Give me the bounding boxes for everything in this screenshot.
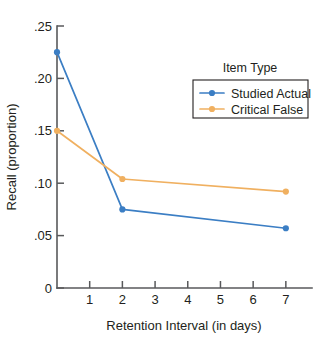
data-point-critical-false xyxy=(119,176,125,182)
legend-swatch-marker xyxy=(209,106,215,112)
series-line-studied-actual xyxy=(57,52,286,228)
data-point-studied-actual xyxy=(283,225,289,231)
legend-entries: Studied ActualCritical False xyxy=(200,87,311,117)
y-tick-label: 0 xyxy=(45,281,52,296)
x-tick-label: 5 xyxy=(217,292,224,307)
data-point-critical-false xyxy=(283,188,289,194)
data-point-studied-actual xyxy=(119,206,125,212)
y-tick-label: .20 xyxy=(34,71,52,86)
legend: Item Type Studied ActualCritical False xyxy=(193,61,311,118)
x-tick-label: 3 xyxy=(151,292,158,307)
chart-container: 0.05.10.15.20.25 1234567 Recall (proport… xyxy=(0,0,320,344)
line-chart: 0.05.10.15.20.25 1234567 Recall (proport… xyxy=(0,0,320,344)
x-axis-ticks: 1234567 xyxy=(86,281,289,307)
data-series-group xyxy=(54,49,289,231)
y-axis-title: Recall (proportion) xyxy=(4,104,19,211)
legend-swatch-marker xyxy=(209,90,215,96)
y-tick-label: .10 xyxy=(34,176,52,191)
y-tick-label: .05 xyxy=(34,228,52,243)
y-tick-label: .25 xyxy=(34,19,52,34)
data-point-studied-actual xyxy=(54,49,60,55)
legend-title: Item Type xyxy=(223,61,278,75)
series-line-critical-false xyxy=(57,131,286,192)
x-tick-label: 6 xyxy=(250,292,257,307)
data-point-critical-false xyxy=(54,128,60,134)
legend-label: Studied Actual xyxy=(231,87,311,101)
legend-label: Critical False xyxy=(231,103,303,117)
x-tick-label: 4 xyxy=(184,292,191,307)
x-tick-label: 2 xyxy=(119,292,126,307)
x-tick-label: 7 xyxy=(282,292,289,307)
x-axis-title: Retention Interval (in days) xyxy=(106,318,261,333)
x-tick-label: 1 xyxy=(86,292,93,307)
y-tick-label: .15 xyxy=(34,123,52,138)
